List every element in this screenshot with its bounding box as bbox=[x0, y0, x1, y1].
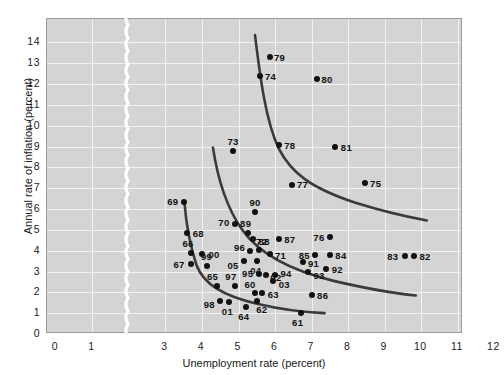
data-point bbox=[256, 247, 262, 253]
y-tick-label: 10 bbox=[0, 119, 40, 131]
data-point-label: 80 bbox=[322, 73, 333, 84]
data-point bbox=[204, 263, 210, 269]
y-tick-label: 14 bbox=[0, 35, 40, 47]
data-point bbox=[214, 283, 220, 289]
data-point bbox=[267, 251, 273, 257]
data-point bbox=[327, 234, 333, 240]
x-axis-label: Unemployment rate (percent) bbox=[46, 357, 462, 369]
x-tick-label: 12 bbox=[478, 340, 504, 352]
data-point bbox=[276, 142, 282, 148]
x-tick-label: 8 bbox=[332, 340, 362, 352]
data-point bbox=[259, 290, 265, 296]
data-point bbox=[272, 272, 278, 278]
data-point bbox=[243, 304, 249, 310]
data-point bbox=[257, 73, 263, 79]
data-point bbox=[241, 258, 247, 264]
data-point-label: 91 bbox=[308, 258, 319, 269]
y-axis-ticks: 01234567891011121314 bbox=[0, 18, 40, 333]
data-point bbox=[247, 248, 253, 254]
data-point bbox=[327, 252, 333, 258]
data-point-label: 64 bbox=[238, 310, 249, 321]
data-point bbox=[300, 259, 306, 265]
data-point bbox=[217, 298, 223, 304]
y-tick-label: 4 bbox=[0, 244, 40, 256]
x-tick-label: 5 bbox=[223, 340, 253, 352]
y-tick-label: 2 bbox=[0, 285, 40, 297]
data-point-label: 79 bbox=[274, 51, 285, 62]
data-point bbox=[309, 292, 315, 298]
y-tick-label: 8 bbox=[0, 160, 40, 172]
data-point-label: 01 bbox=[222, 305, 233, 316]
data-point bbox=[332, 144, 338, 150]
x-tick-label: 4 bbox=[186, 340, 216, 352]
data-point-label: 93 bbox=[313, 269, 324, 280]
data-point-label: 95 bbox=[242, 267, 253, 278]
data-point-label: 98 bbox=[204, 298, 215, 309]
data-point bbox=[289, 182, 295, 188]
data-point bbox=[188, 250, 194, 256]
data-point-label: 89 bbox=[240, 217, 251, 228]
y-tick-label: 9 bbox=[0, 140, 40, 152]
data-point-label: 81 bbox=[341, 141, 352, 152]
data-point-label: 70 bbox=[218, 216, 229, 227]
data-point-label: 62 bbox=[256, 303, 267, 314]
data-point bbox=[267, 54, 273, 60]
data-point bbox=[276, 236, 282, 242]
x-tick-label: 11 bbox=[442, 340, 472, 352]
x-tick-label: 10 bbox=[405, 340, 435, 352]
data-point-label: 77 bbox=[297, 179, 308, 190]
data-point-label: 73 bbox=[227, 135, 238, 146]
axis-break-line bbox=[126, 18, 128, 333]
data-point-label: 86 bbox=[317, 290, 328, 301]
y-tick-label: 0 bbox=[0, 327, 40, 339]
data-point-label: 67 bbox=[173, 259, 184, 270]
data-point bbox=[232, 283, 238, 289]
data-point-label: 63 bbox=[268, 289, 279, 300]
y-tick-label: 6 bbox=[0, 202, 40, 214]
data-point-label: 61 bbox=[292, 317, 303, 328]
y-tick-label: 7 bbox=[0, 181, 40, 193]
data-point bbox=[263, 272, 269, 278]
data-point bbox=[252, 290, 258, 296]
plot-inner: 7974807378817775699070688988877666009672… bbox=[47, 19, 461, 332]
y-tick-label: 13 bbox=[0, 56, 40, 68]
x-tick-label: 6 bbox=[259, 340, 289, 352]
data-point bbox=[184, 230, 190, 236]
data-point-label: 92 bbox=[332, 264, 343, 275]
data-point-label: 68 bbox=[193, 227, 204, 238]
data-point-label: 97 bbox=[225, 271, 236, 282]
y-tick-label: 5 bbox=[0, 223, 40, 235]
y-tick-label: 1 bbox=[0, 306, 40, 318]
data-point bbox=[188, 261, 194, 267]
data-point bbox=[362, 180, 368, 186]
data-point-label: 87 bbox=[284, 234, 295, 245]
data-point-label: 78 bbox=[284, 140, 295, 151]
y-tick-label: 3 bbox=[0, 265, 40, 277]
data-point bbox=[181, 199, 187, 205]
data-point-label: 82 bbox=[419, 250, 430, 261]
data-point-label: 76 bbox=[313, 232, 324, 243]
data-point-label: 05 bbox=[227, 260, 238, 271]
data-point bbox=[245, 230, 251, 236]
x-axis-ticks: 013456789101112 bbox=[0, 340, 499, 356]
data-point-label: 03 bbox=[279, 278, 290, 289]
data-point bbox=[230, 148, 236, 154]
data-point-label: 84 bbox=[335, 249, 346, 260]
x-tick-label: 3 bbox=[149, 340, 179, 352]
curve-phillips-curve-1970s bbox=[255, 35, 427, 220]
data-point bbox=[298, 310, 304, 316]
data-point bbox=[270, 278, 276, 284]
data-point-label: 71 bbox=[275, 249, 286, 260]
data-point bbox=[256, 271, 262, 277]
data-point bbox=[226, 299, 232, 305]
x-tick-label: 9 bbox=[369, 340, 399, 352]
y-tick-label: 11 bbox=[0, 98, 40, 110]
data-point-label: 96 bbox=[234, 241, 245, 252]
axis-break-squiggle bbox=[120, 18, 136, 333]
data-point-label: 90 bbox=[249, 197, 260, 208]
data-point-label: 75 bbox=[370, 177, 381, 188]
data-point bbox=[232, 221, 238, 227]
y-tick-label: 12 bbox=[0, 77, 40, 89]
data-point bbox=[252, 209, 258, 215]
